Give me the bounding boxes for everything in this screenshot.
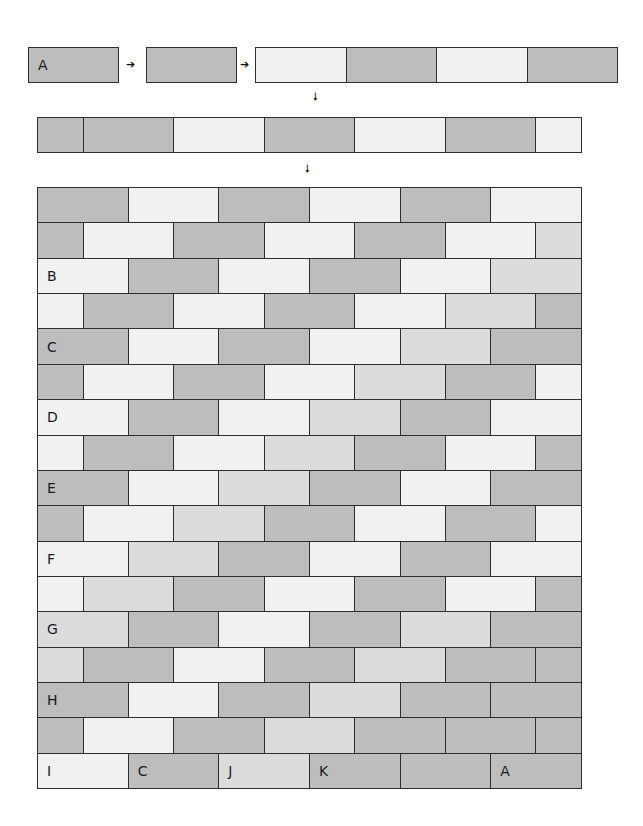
brick-label: I [47,763,51,779]
brick-cell [174,577,265,611]
brick-label: A [500,763,510,779]
wall-row: F [38,542,581,577]
wall-row: D [38,400,581,435]
half-brick-cell [536,506,581,540]
brick-cell [310,329,401,363]
brick-cell: C [38,329,129,363]
half-brick-cell [38,577,84,611]
wall-row: E [38,471,581,506]
brick-cell: H [38,683,129,717]
brick-cell [528,48,618,82]
brick-cell: C [129,754,220,788]
brick-cell [265,506,356,540]
brick-cell [446,118,537,152]
brick-cell [84,506,175,540]
brick-cell [355,223,446,257]
brick-cell [84,577,175,611]
brick-cell: G [38,612,129,646]
brick-cell [446,506,537,540]
brick-cell [310,400,401,434]
brick-cell [446,223,537,257]
brick-cell [84,223,175,257]
brick-cell [84,436,175,470]
brick-cell [401,400,492,434]
brick-cell [446,718,537,752]
wall-row: G [38,612,581,647]
brick-cell [446,365,537,399]
brick-cell [129,542,220,576]
brick-wall-grid: BCDEFGHICJKA [37,187,582,789]
brick-cell [310,188,401,222]
brick-cell [446,577,537,611]
brick-label: F [47,551,55,567]
brick-cell [219,329,310,363]
brick-cell [265,577,356,611]
brick-cell [129,188,220,222]
arrow-down-icon: 🠗 [305,164,310,175]
brick-cell [491,259,581,293]
brick-cell [219,259,310,293]
brick-cell [174,294,265,328]
brick-cell [174,506,265,540]
half-brick-cell [536,294,581,328]
brick-cell [174,118,265,152]
brick-cell [446,294,537,328]
brick-cell [84,294,175,328]
brick-cell [401,683,492,717]
brick-cell [174,718,265,752]
brick-cell [491,400,581,434]
brick-cell [219,542,310,576]
brick-cell [401,329,492,363]
half-brick-cell [536,118,581,152]
half-brick-cell [536,365,581,399]
half-brick-cell [536,718,581,752]
brick-label: E [47,480,56,496]
brick-a: A [28,47,119,83]
brick-cell [219,612,310,646]
brick-cell [219,188,310,222]
half-brick-cell [38,365,84,399]
brick-cell [491,329,581,363]
brick-cell [84,118,175,152]
brick-cell: A [491,754,581,788]
brick-label: G [47,621,58,637]
brick-cell [491,542,581,576]
brick-cell [446,436,537,470]
brick-cell [129,400,220,434]
half-brick-cell [536,223,581,257]
brick-cell [219,471,310,505]
brick-cell [310,471,401,505]
brick-cell: E [38,471,129,505]
brick-label: H [47,692,58,708]
brick-cell [437,48,528,82]
wall-row [38,648,581,683]
brick-cell [491,471,581,505]
brick-cell [355,718,446,752]
half-brick-cell [38,294,84,328]
brick-cell [310,683,401,717]
half-brick-cell [536,436,581,470]
brick-cell [355,118,446,152]
brick-cell [256,48,347,82]
wall-row [38,718,581,753]
brick-cell [129,612,220,646]
brick-cell [355,436,446,470]
half-brick-cell [38,718,84,752]
brick-cell: K [310,754,401,788]
brick-cell [401,754,492,788]
brick-cell: B [38,259,129,293]
wall-row [38,365,581,400]
brick-cell [84,648,175,682]
arrow-right-icon: ➔ [126,59,135,70]
wall-row: B [38,259,581,294]
brick-copy [146,47,237,83]
brick-cell [129,471,220,505]
brick-cell [347,48,438,82]
brick-cell [355,294,446,328]
brick-cell [446,648,537,682]
brick-cell [219,400,310,434]
brick-cell [38,188,129,222]
brick-cell [401,542,492,576]
wall-row [38,506,581,541]
brick-cell: D [38,400,129,434]
